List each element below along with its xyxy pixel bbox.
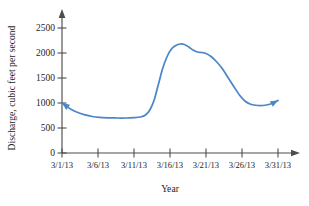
y-tick-label-1000: 1000 xyxy=(36,98,55,108)
y-tick-label-500: 500 xyxy=(41,123,56,133)
y-tick-label-2500: 2500 xyxy=(36,23,55,33)
y-tick-label-2000: 2000 xyxy=(36,48,55,58)
y-axis xyxy=(59,9,66,153)
y-axis-title: Discharge, cubic feet per second xyxy=(6,25,17,150)
x-tick-label-1: 3/6/13 xyxy=(87,160,109,170)
x-tick-label-2: 3/11/13 xyxy=(121,160,147,170)
x-tick-label-6: 3/31/13 xyxy=(265,160,291,170)
data-line-discharge xyxy=(62,44,278,118)
data-series-discharge xyxy=(62,44,278,118)
x-tick-label-3: 3/16/13 xyxy=(157,160,183,170)
chart-canvas: 2500 2000 1500 1000 500 0 3/1/13 3/6/13 … xyxy=(0,0,309,206)
y-tick-label-0: 0 xyxy=(50,148,55,158)
x-tick-label-4: 3/21/13 xyxy=(193,160,219,170)
discharge-line-chart: 2500 2000 1500 1000 500 0 3/1/13 3/6/13 … xyxy=(0,0,309,206)
x-axis-title: Year xyxy=(161,183,179,194)
x-tick-label-5: 3/26/13 xyxy=(229,160,255,170)
x-tick-label-0: 3/1/13 xyxy=(51,160,73,170)
y-tick-label-1500: 1500 xyxy=(36,73,55,83)
